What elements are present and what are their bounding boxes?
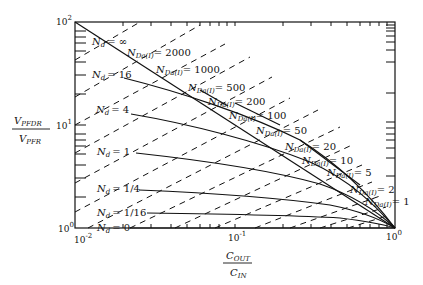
y-axis-title: VPFDR VPFR xyxy=(12,115,50,146)
svg-text:NDa(I)= 20: NDa(I)= 20 xyxy=(284,141,336,154)
svg-text:Nd= 0: Nd= 0 xyxy=(96,222,130,235)
svg-text:Nd= 4: Nd= 4 xyxy=(95,104,129,117)
svg-text:NDa(I)= 5: NDa(I)= 5 xyxy=(326,167,372,180)
chart-canvas: 102 101 100 10-2 10-1 100 VPFDR VPFR COU… xyxy=(0,0,423,285)
x-axis-title: COUT CIN xyxy=(223,250,252,280)
svg-text:Nd= 1: Nd= 1 xyxy=(96,146,130,159)
y-minor-ticks-right xyxy=(386,25,395,176)
svg-text:Nd= 1/4: Nd= 1/4 xyxy=(96,183,140,196)
nd-solid-curves xyxy=(75,22,395,228)
svg-text:NDa(I)= 1: NDa(I)= 1 xyxy=(364,196,410,209)
svg-text:Nd= 16: Nd= 16 xyxy=(91,69,132,82)
svg-text:NDa(I)= 1000: NDa(I)= 1000 xyxy=(155,64,220,77)
svg-text:NDa(I)= 2000: NDa(I)= 2000 xyxy=(126,47,191,60)
y-tick-labels: 102 101 100 xyxy=(56,14,74,234)
svg-text:VPFDR: VPFDR xyxy=(14,115,42,128)
svg-text:102: 102 xyxy=(56,14,72,27)
svg-text:100: 100 xyxy=(386,229,402,242)
curve-nd-infinity xyxy=(75,22,395,228)
svg-text:100: 100 xyxy=(58,221,74,234)
curve-nd-quarter xyxy=(139,190,395,228)
svg-text:101: 101 xyxy=(56,118,72,131)
svg-text:Nd= 1/16: Nd= 1/16 xyxy=(96,207,146,220)
svg-text:10-2: 10-2 xyxy=(74,232,92,245)
svg-text:NDa(I)= 500: NDa(I)= 500 xyxy=(187,82,245,95)
y-minor-ticks-left xyxy=(75,31,86,197)
svg-text:NDa(I)= 50: NDa(I)= 50 xyxy=(255,125,307,138)
svg-text:10-1: 10-1 xyxy=(228,230,246,243)
nd-labels: Nd= ∞ Nd= 16 Nd= 4 Nd= 1 Nd= 1/4 Nd= 1/1… xyxy=(91,36,146,235)
svg-text:VPFR: VPFR xyxy=(19,133,42,146)
curve-nd-sixteenth xyxy=(147,213,395,228)
svg-text:CIN: CIN xyxy=(230,267,247,280)
svg-text:COUT: COUT xyxy=(226,250,251,263)
